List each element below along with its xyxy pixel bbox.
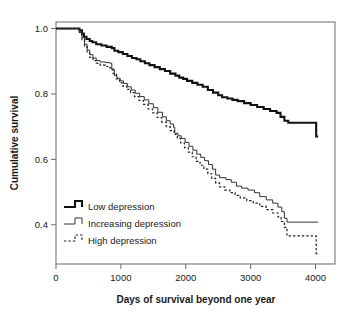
y-tick-label: 0.4 bbox=[35, 219, 48, 230]
legend-label: Low depression bbox=[88, 201, 155, 212]
x-tick-label: 3000 bbox=[240, 272, 261, 283]
legend-label: High depression bbox=[88, 235, 157, 246]
x-tick-label: 4000 bbox=[305, 272, 326, 283]
x-axis-title: Days of survival beyond one year bbox=[117, 294, 276, 305]
chart-background bbox=[0, 0, 349, 312]
x-tick-label: 0 bbox=[53, 272, 58, 283]
y-tick-label: 1.0 bbox=[35, 23, 48, 34]
y-tick-label: 0.8 bbox=[35, 88, 48, 99]
x-tick-label: 2000 bbox=[175, 272, 196, 283]
y-tick-label: 0.6 bbox=[35, 154, 48, 165]
y-axis-title: Cumulative survival bbox=[9, 96, 20, 191]
x-tick-label: 1000 bbox=[110, 272, 131, 283]
legend-label: Increasing depression bbox=[88, 218, 181, 229]
survival-chart: 0.40.60.81.0 01000200030004000 Cumulativ… bbox=[0, 0, 349, 312]
